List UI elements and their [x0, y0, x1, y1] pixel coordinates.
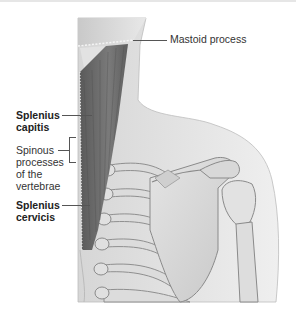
- spinous-leader-line: [58, 150, 69, 151]
- label-spinous-line1: Spinous: [16, 144, 54, 156]
- mastoid-leader-line: [133, 40, 167, 41]
- label-splenius-cervicis-line1: Splenius: [16, 199, 60, 211]
- spinous-bracket-bottom: [69, 162, 76, 163]
- label-spinous-line4: vertebrae: [16, 180, 60, 192]
- label-spinous-line2: processes: [16, 156, 64, 168]
- splenius-cervicis-leader-line: [62, 205, 90, 206]
- label-mastoid-process: Mastoid process: [170, 33, 246, 45]
- spinous-bracket-top: [69, 137, 76, 138]
- splenius-capitis-leader-line: [62, 115, 92, 116]
- spinous-bracket: [69, 137, 70, 163]
- label-splenius-cervicis-line2: cervicis: [16, 211, 55, 223]
- label-splenius-capitis-line2: capitis: [16, 121, 49, 133]
- label-spinous-line3: of the: [16, 168, 42, 180]
- label-splenius-capitis-line1: Splenius: [16, 109, 60, 121]
